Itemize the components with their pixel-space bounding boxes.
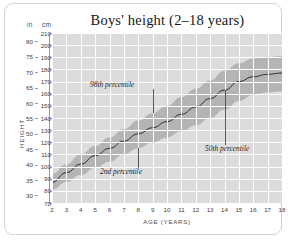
unit-header-inches: in <box>27 21 32 28</box>
gridline-vertical <box>268 33 269 203</box>
annotation-leader-line <box>225 90 226 145</box>
y-tick-mark-in <box>35 88 38 89</box>
gridline-vertical <box>110 33 111 203</box>
x-tick-label: 17 <box>261 206 275 213</box>
y-tick-mark-cm <box>49 203 52 204</box>
y-tick-mark-in <box>35 72 38 73</box>
y-tick-mark-in <box>35 180 38 181</box>
x-tick-label: 18 <box>275 206 288 213</box>
y-tick-mark-in <box>35 134 38 135</box>
y-tick-label-in: 45 <box>19 146 33 153</box>
x-tick-label: 7 <box>117 206 131 213</box>
y-tick-mark-in <box>35 103 38 104</box>
annotation-leader-line <box>153 89 154 113</box>
y-tick-label-in: 60 <box>19 100 33 107</box>
gridline-vertical <box>239 33 240 203</box>
gridline-vertical <box>81 33 82 203</box>
x-tick-label: 5 <box>88 206 102 213</box>
x-tick-label: 8 <box>131 206 145 213</box>
y-tick-label-in: 75 <box>19 53 33 60</box>
x-axis-label: AGE (YEARS) <box>52 218 282 225</box>
x-tick-label: 6 <box>103 206 117 213</box>
plot-area <box>52 33 282 203</box>
y-tick-label-in: 70 <box>19 69 33 76</box>
y-tick-label-in: 55 <box>19 115 33 122</box>
gridline-vertical <box>95 33 96 203</box>
x-tick-label: 12 <box>189 206 203 213</box>
annotation-leader-line <box>138 148 139 168</box>
y-tick-label-in: 40 <box>19 161 33 168</box>
x-tick-label: 10 <box>160 206 174 213</box>
gridline-vertical <box>253 33 254 203</box>
growth-chart-figure: Boys' height (2–18 years) in cm HEIGHT 7… <box>4 3 282 235</box>
x-tick-label: 2 <box>45 206 59 213</box>
gridline-vertical <box>66 33 67 203</box>
gridline-vertical <box>124 33 125 203</box>
chart-title: Boys' height (2–18 years) <box>52 12 283 29</box>
y-tick-label-in: 30 <box>19 192 33 199</box>
y-tick-mark-in <box>35 165 38 166</box>
x-tick-label: 3 <box>59 206 73 213</box>
y-tick-mark-in <box>35 41 38 42</box>
y-tick-mark-in <box>35 118 38 119</box>
annotation-label: 50th percentile <box>205 144 249 153</box>
y-tick-mark-in <box>35 149 38 150</box>
y-tick-label-in: 50 <box>19 130 33 137</box>
y-tick-label-in: 65 <box>19 84 33 91</box>
x-tick-label: 14 <box>218 206 232 213</box>
x-tick-label: 15 <box>232 206 246 213</box>
y-tick-label-in: 35 <box>19 177 33 184</box>
gridline-vertical <box>52 33 53 203</box>
x-tick-label: 13 <box>203 206 217 213</box>
gridline-vertical <box>181 33 182 203</box>
gridline-vertical <box>138 33 139 203</box>
gridline-vertical <box>167 33 168 203</box>
y-tick-mark-in <box>35 57 38 58</box>
annotation-label: 98th percentile <box>90 80 134 89</box>
x-tick-label: 16 <box>246 206 260 213</box>
x-tick-label: 11 <box>174 206 188 213</box>
x-tick-label: 4 <box>74 206 88 213</box>
annotation-label: 2nd percentile <box>100 167 142 176</box>
x-tick-label: 9 <box>146 206 160 213</box>
gridline-vertical <box>153 33 154 203</box>
y-tick-label-in: 80 <box>19 38 33 45</box>
gridline-vertical <box>210 33 211 203</box>
y-tick-mark-in <box>35 195 38 196</box>
gridline-vertical <box>196 33 197 203</box>
unit-header-centimeters: cm <box>42 21 51 28</box>
